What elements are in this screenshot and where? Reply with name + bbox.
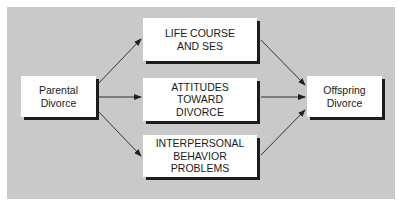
- node-attitudes-toward-divorce: ATTITUDES TOWARD DIVORCE: [143, 78, 257, 121]
- node-label: Parental Divorce: [39, 84, 78, 109]
- node-label: Offspring Divorce: [323, 84, 365, 109]
- arrow-lifecourse-to-offspring: [261, 40, 305, 85]
- arrow-interpersonal-to-offspring: [261, 110, 305, 155]
- node-label: ATTITUDES TOWARD DIVORCE: [171, 81, 229, 119]
- arrow-parental-to-lifecourse: [97, 39, 141, 85]
- arrow-parental-to-interpersonal: [97, 110, 141, 156]
- node-label: INTERPERSONAL BEHAVIOR PROBLEMS: [156, 137, 245, 175]
- node-life-course-ses: LIFE COURSE AND SES: [143, 18, 257, 61]
- node-interpersonal-behavior-problems: INTERPERSONAL BEHAVIOR PROBLEMS: [143, 135, 257, 177]
- node-parental-divorce: Parental Divorce: [21, 76, 96, 117]
- node-offspring-divorce: Offspring Divorce: [307, 76, 382, 117]
- node-label: LIFE COURSE AND SES: [165, 27, 235, 52]
